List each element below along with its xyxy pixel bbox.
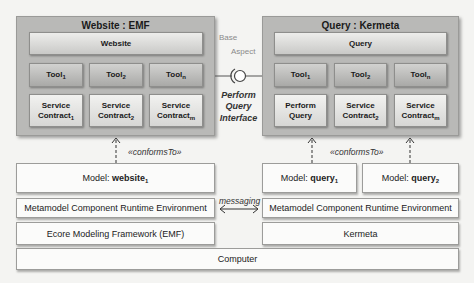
base-label: Base xyxy=(219,33,237,42)
aspect-label: Aspect xyxy=(231,47,255,56)
ecore-framework-box: Ecore Modeling Framework (EMF) xyxy=(16,222,215,245)
website-tool-2: Tool2 xyxy=(89,63,143,87)
query-tool-1: Tool1 xyxy=(274,63,327,87)
computer-box: Computer xyxy=(16,248,459,270)
perform-query-box: PerformQuery xyxy=(274,94,327,127)
left-runtime-environment: Metamodel Component Runtime Environment xyxy=(16,198,215,218)
kermeta-box: Kermeta xyxy=(262,222,459,245)
query-component-title: Query : Kermeta xyxy=(263,20,458,31)
website-service-contract-2: ServiceContract2 xyxy=(89,94,143,127)
website-tool-1: Tool1 xyxy=(29,63,83,87)
query-tool-2: Tool2 xyxy=(334,63,387,87)
conforms-arrow-right-2 xyxy=(405,137,415,163)
messaging-arrow xyxy=(218,204,260,214)
conforms-arrow-left xyxy=(111,137,121,163)
query-tool-n: Tooln xyxy=(394,63,447,87)
website-service-contract-m: ServiceContractm xyxy=(149,94,203,127)
query-box: Query xyxy=(274,32,447,55)
right-runtime-environment: Metamodel Component Runtime Environment xyxy=(262,198,459,218)
provided-required-interface-icon xyxy=(215,66,262,86)
perform-query-interface-label: Perform Query Interface xyxy=(215,90,262,124)
website-service-contract-1: ServiceContract1 xyxy=(29,94,83,127)
conforms-to-label-left: «conformsTo» xyxy=(128,147,182,157)
query-service-contract-m: ServiceContractm xyxy=(394,94,447,127)
model-website-box: Model: website1 xyxy=(16,163,215,193)
model-query-1-box: Model: query1 xyxy=(262,163,357,193)
conforms-to-label-right: «conformsTo» xyxy=(330,147,384,157)
query-service-contract-2: ServiceContract2 xyxy=(334,94,387,127)
website-component-title: Website : EMF xyxy=(17,20,214,31)
conforms-arrow-right-1 xyxy=(307,137,317,163)
website-tool-n: Tooln xyxy=(149,63,203,87)
website-box: Website xyxy=(29,32,203,55)
model-query-2-box: Model: query2 xyxy=(362,163,459,193)
